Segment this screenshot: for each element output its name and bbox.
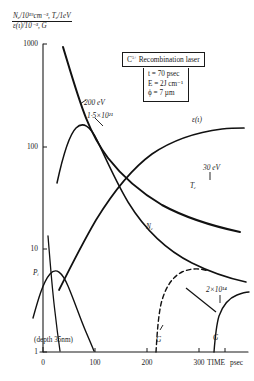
x-axis-unit: psec <box>230 358 243 367</box>
y-tick-1000: 1000 <box>12 39 38 48</box>
annotation-pointers <box>80 100 220 330</box>
recombination-laser-chart: Nₑ/10¹⁹cm⁻³, Tₑ/1eV ε(ι)/10⁻³, G 1000 10… <box>0 0 254 381</box>
curve-label-epsilon: ε(ι) <box>192 115 202 124</box>
curve-label-g-dashed: G <box>156 335 161 344</box>
annotation-te-tail: 30 eV <box>203 163 220 172</box>
param-energy: E = 2J cm⁻¹ <box>148 80 183 90</box>
y-tick-marks <box>43 44 47 352</box>
param-spot-diameter: ϕ = 7 µm <box>148 89 183 99</box>
y-axis-caption-row1: Nₑ/10¹⁹cm⁻³, Tₑ/1eV <box>12 13 72 22</box>
annotation-ne-peak: 1·5×10²¹ <box>87 111 113 120</box>
annotation-te-peak: 200 eV <box>84 98 105 107</box>
depth-note: (depth 35nm) <box>34 336 73 344</box>
y-tick-10: 10 <box>12 244 38 253</box>
curve-Ne <box>57 125 246 282</box>
param-pulse-duration: t = 70 psec <box>148 70 183 80</box>
y-axis-caption-row2: ε(ι)/10⁻³, G <box>12 22 72 30</box>
curve-G-solid <box>214 292 249 352</box>
curve-G-dashed <box>156 269 208 352</box>
y-tick-1: 1 <box>12 347 38 356</box>
y-axis-caption: Nₑ/10¹⁹cm⁻³, Tₑ/1eV ε(ι)/10⁻³, G <box>12 13 72 30</box>
curve-label-te: Tₑ <box>190 181 196 190</box>
x-axis-title: TIME <box>207 358 225 367</box>
y-tick-100: 100 <box>12 142 38 151</box>
info-box-title-rest: Recombination laser <box>137 55 200 64</box>
info-box-title: C5+ Recombination laser <box>122 52 205 67</box>
annotation-gain-value: 2×10¹⁴ <box>206 285 227 294</box>
info-box-parameters: t = 70 psec E = 2J cm⁻¹ ϕ = 7 µm <box>143 68 189 102</box>
curve-label-g-solid: G <box>213 333 218 342</box>
x-tick-100: 100 <box>82 358 108 367</box>
curve-label-ne: Nₑ <box>146 222 153 231</box>
curve-epsilon <box>59 128 244 290</box>
x-tick-marks <box>43 347 225 352</box>
x-tick-200: 200 <box>134 358 160 367</box>
curve-label-pi: Pᵢ <box>33 268 39 277</box>
curve-Pi-tail <box>48 236 60 351</box>
x-tick-0: 0 <box>30 358 56 367</box>
